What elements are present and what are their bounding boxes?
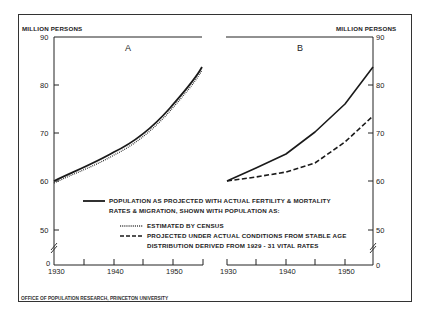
series-b-solid <box>227 67 373 181</box>
x-tick-1930-b: 1930 <box>220 267 237 276</box>
legend: POPULATION AS PROJECTED WITH ACTUAL FERT… <box>83 197 347 249</box>
legend-dotted-label: ESTIMATED BY CENSUS <box>147 222 224 229</box>
legend-solid-label-2: RATES & MIGRATION, SHOWN WITH POPULATION… <box>109 207 280 214</box>
x-tick-1940: 1940 <box>107 267 124 276</box>
panel-b-y-unit: MILLION PERSONS <box>336 25 396 32</box>
y-tick-90: 90 <box>40 33 48 42</box>
y-tick-0-right: 0 <box>376 261 380 270</box>
x-tick-1930: 1930 <box>48 267 65 276</box>
y-tick-60: 60 <box>40 177 48 186</box>
panel-a-y-unit: MILLION PERSONS <box>22 25 82 32</box>
panel-b-label: B <box>297 43 303 53</box>
y-tick-60-right: 60 <box>376 177 384 186</box>
legend-dashed-label: PROJECTED UNDER ACTUAL CONDITIONS FROM S… <box>147 232 347 239</box>
y-tick-70: 70 <box>40 129 48 138</box>
legend-dashed-label-2: DISTRIBUTION DERIVED FROM 1929 - 31 VITA… <box>147 242 319 249</box>
footer-credit: OFFICE OF POPULATION RESEARCH, PRINCETON… <box>21 296 169 301</box>
y-tick-80-right: 80 <box>376 81 384 90</box>
x-tick-1940-b: 1940 <box>279 267 296 276</box>
y-tick-80: 80 <box>40 81 48 90</box>
y-tick-50: 50 <box>40 226 48 235</box>
legend-solid-label: POPULATION AS PROJECTED WITH ACTUAL FERT… <box>109 197 332 204</box>
y-tick-50-right: 50 <box>376 226 384 235</box>
series-a-solid <box>54 67 202 181</box>
y-tick-70-right: 70 <box>376 129 384 138</box>
y-tick-90-right: 90 <box>376 33 384 42</box>
population-chart: MILLION PERSONS A 90 80 70 60 50 0 <box>0 0 430 319</box>
panel-a-label: A <box>125 43 131 53</box>
x-tick-1950-b: 1950 <box>338 267 355 276</box>
x-tick-1950: 1950 <box>166 267 183 276</box>
series-a-dotted <box>54 70 202 183</box>
